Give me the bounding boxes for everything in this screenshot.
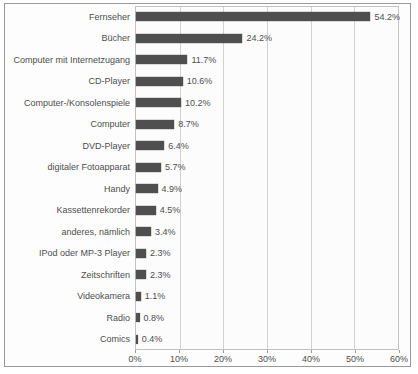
x-tick-mark: [399, 350, 400, 353]
bar: [136, 34, 242, 43]
x-tick-mark: [135, 350, 136, 353]
bar-row: Bücher24.2%: [5, 28, 410, 50]
bar-track: 4.5%: [136, 205, 400, 215]
bar-track: 54.2%: [136, 12, 400, 22]
bar-track: 6.4%: [136, 141, 400, 151]
bar-row: Videokamera1.1%: [5, 286, 410, 308]
bar-track: 2.3%: [136, 270, 400, 280]
bar: [136, 227, 151, 236]
category-label: anderes, nämlich: [5, 227, 136, 237]
x-tick-label: 30%: [258, 354, 276, 364]
value-label: 10.2%: [185, 98, 211, 108]
x-tick-mark: [223, 350, 224, 353]
bar-row: IPod oder MP-3 Player2.3%: [5, 243, 410, 265]
bar: [136, 249, 146, 258]
value-label: 24.2%: [246, 33, 272, 43]
value-label: 0.8%: [144, 313, 165, 323]
value-label: 2.3%: [150, 248, 171, 258]
x-tick-label: 60%: [390, 354, 408, 364]
value-label: 4.5%: [160, 205, 181, 215]
bar-row: Zeitschriften2.3%: [5, 264, 410, 286]
bar-track: 4.9%: [136, 184, 400, 194]
category-label: Bücher: [5, 33, 136, 43]
bar: [136, 120, 174, 129]
category-label: Computer: [5, 119, 136, 129]
bar-track: 1.1%: [136, 291, 400, 301]
category-label: digitaler Fotoapparat: [5, 162, 136, 172]
x-tick-label: 20%: [214, 354, 232, 364]
bar-row: Handy4.9%: [5, 178, 410, 200]
bar-row: Computer mit Internetzugang11.7%: [5, 49, 410, 71]
category-label: Zeitschriften: [5, 270, 136, 280]
bar: [136, 206, 156, 215]
x-tick-label: 10%: [170, 354, 188, 364]
bar: [136, 98, 181, 107]
bar-row: Fernseher54.2%: [5, 6, 410, 28]
bar: [136, 141, 164, 150]
value-label: 54.2%: [374, 12, 400, 22]
bar: [136, 12, 370, 21]
x-axis: 0%10%20%30%40%50%60%: [135, 352, 399, 366]
category-label: CD-Player: [5, 76, 136, 86]
value-label: 6.4%: [168, 141, 189, 151]
bar: [136, 292, 141, 301]
bar-row: DVD-Player6.4%: [5, 135, 410, 157]
value-label: 4.9%: [162, 184, 183, 194]
chart-screenshot: Fernseher54.2%Bücher24.2%Computer mit In…: [0, 0, 418, 374]
value-label: 2.3%: [150, 270, 171, 280]
bar-track: 2.3%: [136, 248, 400, 258]
bar-row: Kassettenrekorder4.5%: [5, 200, 410, 222]
x-tick-label: 40%: [302, 354, 320, 364]
category-label: Computer mit Internetzugang: [5, 55, 136, 65]
bar-row: Comics0.4%: [5, 329, 410, 351]
bar-track: 0.8%: [136, 313, 400, 323]
category-label: Kassettenrekorder: [5, 205, 136, 215]
x-tick-label: 50%: [346, 354, 364, 364]
bar-track: 5.7%: [136, 162, 400, 172]
x-tick-mark: [355, 350, 356, 353]
bar: [136, 335, 138, 344]
value-label: 1.1%: [145, 291, 166, 301]
category-label: Comics: [5, 334, 136, 344]
x-tick-mark: [311, 350, 312, 353]
bar-rows: Fernseher54.2%Bücher24.2%Computer mit In…: [5, 6, 410, 350]
bar: [136, 313, 140, 322]
category-label: Videokamera: [5, 291, 136, 301]
bar-track: 11.7%: [136, 55, 400, 65]
value-label: 0.4%: [142, 334, 163, 344]
value-label: 10.6%: [187, 76, 213, 86]
chart-frame: Fernseher54.2%Bücher24.2%Computer mit In…: [4, 3, 411, 367]
value-label: 3.4%: [155, 227, 176, 237]
bar: [136, 270, 146, 279]
x-tick-mark: [179, 350, 180, 353]
value-label: 11.7%: [191, 55, 216, 65]
category-label: DVD-Player: [5, 141, 136, 151]
bar-row: anderes, nämlich3.4%: [5, 221, 410, 243]
bar-track: 24.2%: [136, 33, 400, 43]
bar-row: digitaler Fotoapparat5.7%: [5, 157, 410, 179]
value-label: 5.7%: [165, 162, 186, 172]
bar: [136, 55, 187, 64]
value-label: 8.7%: [178, 119, 199, 129]
bar: [136, 77, 183, 86]
bar-track: 10.6%: [136, 76, 400, 86]
bar-row: CD-Player10.6%: [5, 71, 410, 93]
bar-row: Radio0.8%: [5, 307, 410, 329]
category-label: Fernseher: [5, 12, 136, 22]
category-label: Radio: [5, 313, 136, 323]
bar-track: 8.7%: [136, 119, 400, 129]
bar-row: Computer-/Konsolenspiele10.2%: [5, 92, 410, 114]
bar: [136, 184, 158, 193]
category-label: IPod oder MP-3 Player: [5, 248, 136, 258]
category-label: Handy: [5, 184, 136, 194]
bar-track: 3.4%: [136, 227, 400, 237]
x-tick-label: 0%: [128, 354, 141, 364]
x-tick-mark: [267, 350, 268, 353]
bar-row: Computer8.7%: [5, 114, 410, 136]
bar-track: 0.4%: [136, 334, 400, 344]
bar: [136, 163, 161, 172]
category-label: Computer-/Konsolenspiele: [5, 98, 136, 108]
bar-track: 10.2%: [136, 98, 400, 108]
